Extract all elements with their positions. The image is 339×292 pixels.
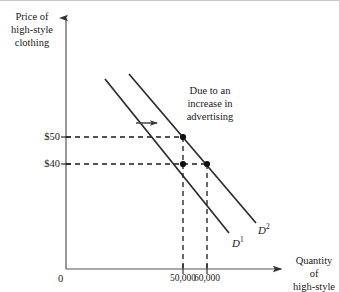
point-d2-at-price-40 bbox=[204, 161, 210, 167]
x-axis-title-line-1: Quantity of bbox=[290, 255, 338, 281]
shift-annotation: Due to an increase in advertising bbox=[168, 85, 252, 123]
y-axis-title: Price of high-style clothing bbox=[4, 11, 60, 49]
y-axis-title-line-3: clothing bbox=[4, 37, 60, 50]
d2-label-base: D bbox=[258, 224, 266, 236]
y-axis-title-line-2: high-style bbox=[4, 24, 60, 37]
origin-label: 0 bbox=[58, 273, 63, 286]
demand-shift-chart: Price of high-style clothing Quantity of… bbox=[0, 0, 339, 292]
y-tick-label-40: $40 bbox=[26, 158, 60, 171]
d1-label-base: D bbox=[232, 237, 240, 249]
d1-label-superscript: 1 bbox=[240, 235, 244, 244]
d2-label-superscript: 2 bbox=[266, 222, 270, 231]
y-tick-label-50: $50 bbox=[26, 131, 60, 144]
x-axis-title: Quantity of high-style clothing bbox=[290, 255, 338, 292]
x-tick-label-60000: 60,000 bbox=[187, 273, 227, 285]
demand-curve-d1-label: D1 bbox=[232, 235, 244, 250]
shift-annotation-line-3: advertising bbox=[168, 111, 252, 124]
point-d2-at-price-50 bbox=[180, 134, 186, 140]
point-d1-at-price-40 bbox=[180, 161, 186, 167]
demand-curve-d2-label: D2 bbox=[258, 222, 270, 237]
shift-annotation-line-1: Due to an bbox=[168, 85, 252, 98]
shift-annotation-line-2: increase in bbox=[168, 98, 252, 111]
x-axis-title-line-2: high-style bbox=[290, 281, 338, 292]
y-axis-title-line-1: Price of bbox=[4, 11, 60, 24]
